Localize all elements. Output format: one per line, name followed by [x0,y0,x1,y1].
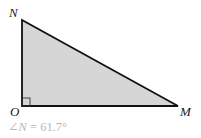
vertex-label-m: M [179,104,192,119]
vertex-label-n: N [8,5,19,20]
vertex-label-o: O [10,104,20,119]
angle-value: 61.7° [40,120,67,134]
equals-sign: = [27,120,40,134]
angle-vertex: N [18,120,26,134]
angle-caption: ∠N = 61.7° [8,119,67,135]
triangle-diagram: N O M [0,0,201,138]
angle-symbol: ∠ [8,120,18,134]
triangle-nom [22,20,178,106]
